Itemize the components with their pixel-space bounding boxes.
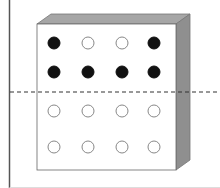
box-top-face [37,14,190,24]
filled-circle-icon [82,66,94,78]
empty-circle-icon [82,37,94,49]
filled-circle-icon [48,66,60,78]
empty-circle-icon [148,105,160,117]
empty-circle-icon [48,141,60,153]
filled-circle-icon [116,66,128,78]
empty-circle-icon [116,141,128,153]
empty-circle-icon [116,105,128,117]
empty-circle-icon [82,105,94,117]
empty-circle-icon [116,37,128,49]
empty-circle-icon [48,105,60,117]
filled-circle-icon [48,37,60,49]
filled-circle-icon [148,66,160,78]
empty-circle-icon [148,141,160,153]
filled-circle-icon [148,37,160,49]
diagram-canvas [0,0,220,188]
empty-circle-icon [82,141,94,153]
